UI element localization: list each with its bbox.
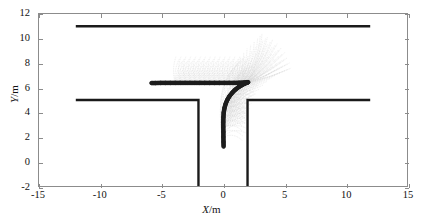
y-tick-label--2: -2 — [0, 181, 30, 192]
plot-area — [38, 13, 408, 187]
candidate-trajectory — [248, 34, 262, 82]
x-tick-label--10: -10 — [80, 189, 120, 200]
y-tick-label-0: 0 — [0, 156, 30, 167]
y-tick-10 — [39, 39, 43, 40]
x-tick-label-15: 15 — [388, 189, 423, 200]
x-tick-15 — [409, 184, 410, 188]
candidate-prediction-fans — [174, 34, 292, 141]
x-tick-5 — [286, 14, 287, 18]
y-tick-label-6: 6 — [0, 82, 30, 93]
candidate-trajectory — [223, 135, 242, 141]
executed-trajectory — [150, 80, 250, 148]
y-tick-10 — [405, 39, 409, 40]
x-tick-label-0: 0 — [203, 189, 243, 200]
x-tick-5 — [286, 184, 287, 188]
x-tick-10 — [347, 14, 348, 18]
y-tick-12 — [405, 14, 409, 15]
x-axis-title-unit: /m — [209, 203, 221, 215]
y-tick-4 — [39, 113, 43, 114]
y-axis-title-symbol: Y — [8, 97, 20, 103]
y-tick-8 — [405, 64, 409, 65]
figure-container: X/m Y/m -15-10-5051015-2024681012 — [0, 0, 423, 223]
x-tick-10 — [347, 184, 348, 188]
y-tick-label-12: 12 — [0, 7, 30, 18]
y-tick-label-10: 10 — [0, 32, 30, 43]
y-tick-12 — [39, 14, 43, 15]
x-tick--10 — [101, 14, 102, 18]
y-tick-6 — [405, 89, 409, 90]
x-tick-label-5: 5 — [265, 189, 305, 200]
y-tick-2 — [39, 138, 43, 139]
x-tick-0 — [224, 14, 225, 18]
y-tick-0 — [405, 163, 409, 164]
y-tick-label-8: 8 — [0, 57, 30, 68]
x-axis-title: X/m — [0, 203, 423, 215]
x-tick-15 — [409, 14, 410, 18]
x-tick--5 — [162, 14, 163, 18]
road-boundary-right — [248, 100, 371, 186]
x-tick--10 — [101, 184, 102, 188]
x-tick-label-10: 10 — [326, 189, 366, 200]
x-tick-label--5: -5 — [141, 189, 181, 200]
road-boundary-left — [76, 100, 199, 186]
plot-canvas — [39, 14, 407, 186]
x-tick--5 — [162, 184, 163, 188]
y-tick-label-4: 4 — [0, 106, 30, 117]
y-tick-0 — [39, 163, 43, 164]
y-tick-4 — [405, 113, 409, 114]
y-tick-2 — [405, 138, 409, 139]
y-tick-label-2: 2 — [0, 131, 30, 142]
y-tick-6 — [39, 89, 43, 90]
x-tick-0 — [224, 184, 225, 188]
y-tick-8 — [39, 64, 43, 65]
